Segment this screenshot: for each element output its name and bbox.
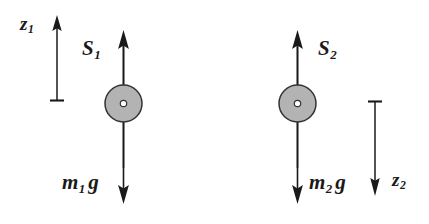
force-label-m2g-subscript: 2	[326, 181, 333, 196]
force-label-s1-variable: S	[82, 36, 94, 60]
force-label-m2g-variable: m	[309, 170, 325, 194]
axis-label-z1-subscript: 1	[28, 23, 34, 36]
force-label-s1-subscript: 1	[94, 47, 101, 62]
axis-label-z2: z2	[392, 170, 406, 189]
force-label-m1g-gravity: g	[88, 170, 99, 194]
axis-label-z2-subscript: 2	[400, 179, 406, 192]
force-label-s2-subscript: 2	[330, 47, 337, 62]
mass-2-disc	[279, 85, 316, 122]
axis-label-z1: z1	[20, 14, 34, 33]
force-label-m2g: m2g	[309, 172, 346, 193]
force-label-m1g-subscript: 1	[79, 181, 86, 196]
force-label-s2: S2	[318, 38, 337, 59]
force-label-m1g: m1g	[62, 172, 99, 193]
axis-label-z1-variable: z	[20, 13, 27, 34]
force-label-m1g-variable: m	[62, 170, 78, 194]
force-label-m2g-gravity: g	[335, 170, 346, 194]
mass-1-disc	[105, 85, 142, 122]
axis-label-z2-variable: z	[392, 169, 399, 190]
z2-axis	[368, 101, 382, 196]
mass-1-hub-icon	[120, 100, 126, 106]
force-label-s2-variable: S	[318, 36, 330, 60]
force-label-s1: S1	[82, 38, 101, 59]
physics-free-body-diagram: z1 S1 m1g S2 m2g z2	[0, 0, 429, 224]
z1-axis	[50, 15, 64, 101]
mass-2-hub-icon	[294, 100, 300, 106]
